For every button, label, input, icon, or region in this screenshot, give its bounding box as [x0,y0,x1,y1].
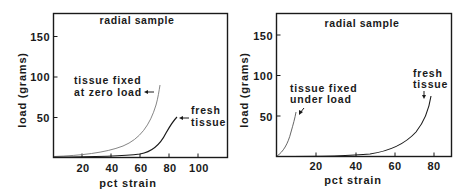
right-annotation-fresh-line2: tissue [413,78,448,90]
left-arrow-fresh-icon [179,116,189,120]
left-chart-title: radial sample [100,14,175,26]
left-annotation-fixed-line2: at zero load [74,86,142,98]
right-xtick-80: 80 [427,160,440,172]
right-xtick-60: 60 [388,160,401,172]
right-ytick-100: 100 [253,70,273,82]
figure: 150 100 50 20 40 60 80 100 pct strain lo… [0,0,467,196]
right-x-axis-label: pct strain [324,174,382,186]
right-arrow-fixed-icon [299,108,304,115]
right-curve-fresh-tissue [277,96,431,157]
left-x-axis-label: pct strain [99,177,157,189]
left-ytick-50: 50 [37,112,50,124]
left-y-axis-label: load (grams) [16,52,28,128]
right-ytick-50: 50 [260,111,273,123]
right-curve-fixed-under-load [277,112,296,156]
right-xtick-40: 40 [349,160,362,172]
right-panel: 150 100 50 20 40 60 80 pct strain load (… [238,14,452,187]
left-ytick-150: 150 [30,31,50,43]
left-annotation-fresh-line1: fresh [191,104,221,116]
right-arrow-fresh-icon [422,91,426,99]
left-curve-fresh-tissue [54,117,177,157]
right-chart-title: radial sample [325,17,400,29]
left-arrow-fixed-icon [144,90,154,94]
right-ytick-150: 150 [253,30,273,42]
left-xtick-100: 100 [189,162,209,174]
right-annotation-fixed-line2: under load [290,93,352,105]
right-y-axis-label: load (grams) [238,52,250,128]
left-xtick-80: 80 [163,162,176,174]
left-xtick-60: 60 [134,162,147,174]
left-ytick-100: 100 [30,71,50,83]
left-panel: 150 100 50 20 40 60 80 100 pct strain lo… [16,14,228,190]
left-xtick-40: 40 [105,162,118,174]
left-annotation-fresh-line2: tissue [191,116,226,128]
left-xtick-20: 20 [76,162,89,174]
left-annotation-fixed-line1: tissue fixed [74,74,141,86]
right-xtick-20: 20 [309,160,322,172]
